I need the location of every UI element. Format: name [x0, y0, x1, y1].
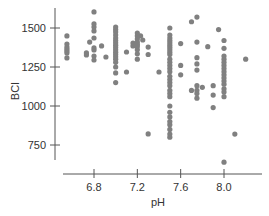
y-ticks: 750100012501500: [22, 22, 60, 151]
data-point: [91, 28, 96, 33]
data-point: [146, 131, 151, 136]
data-point: [221, 46, 226, 51]
data-point: [91, 9, 96, 14]
data-point: [167, 110, 172, 115]
data-point: [167, 94, 172, 99]
data-point: [103, 54, 108, 59]
data-point: [221, 160, 226, 165]
y-axis-title: BCI: [9, 82, 21, 100]
data-point: [205, 44, 210, 49]
data-point: [189, 19, 194, 24]
data-point: [194, 61, 199, 66]
y-tick-label: 1250: [22, 61, 46, 73]
x-tick-label: 6.8: [86, 181, 101, 193]
data-point: [200, 85, 205, 90]
data-point: [87, 39, 92, 44]
data-point: [194, 55, 199, 60]
data-point: [91, 35, 96, 40]
data-point: [211, 92, 216, 97]
data-point: [167, 135, 172, 140]
data-point: [167, 122, 172, 127]
data-point: [124, 69, 129, 74]
data-point: [232, 131, 237, 136]
data-point: [167, 127, 172, 132]
x-tick-label: 8.0: [216, 181, 231, 193]
data-point: [113, 80, 118, 85]
data-point: [135, 51, 140, 56]
data-point: [243, 57, 248, 62]
x-axis-title: pH: [151, 196, 165, 208]
data-point: [178, 41, 183, 46]
data-point: [167, 114, 172, 119]
x-tick-label: 7.6: [173, 181, 188, 193]
data-point: [140, 37, 145, 42]
data-point: [211, 83, 216, 88]
data-point: [64, 55, 69, 60]
scatter-chart: 750100012501500 6.87.27.68.0 BCI pH: [0, 0, 269, 216]
data-point: [221, 82, 226, 87]
data-point: [91, 57, 96, 62]
data-point: [167, 103, 172, 108]
y-tick-label: 1500: [22, 22, 46, 34]
data-points: [64, 9, 248, 164]
y-tick-label: 750: [28, 139, 46, 151]
data-point: [194, 14, 199, 19]
data-point: [167, 25, 172, 30]
data-point: [189, 88, 194, 93]
data-point: [194, 91, 199, 96]
data-point: [113, 60, 118, 65]
data-point: [64, 50, 69, 55]
x-tick-label: 7.2: [130, 181, 145, 193]
data-point: [194, 68, 199, 73]
data-point: [221, 89, 226, 94]
data-point: [194, 39, 199, 44]
data-point: [221, 38, 226, 43]
data-point: [64, 33, 69, 38]
data-point: [124, 49, 129, 54]
data-point: [178, 63, 183, 68]
data-point: [113, 64, 118, 69]
data-point: [167, 83, 172, 88]
data-point: [84, 52, 89, 57]
x-ticks: 6.87.27.68.0: [86, 169, 231, 193]
data-point: [146, 52, 151, 57]
data-point: [113, 70, 118, 75]
data-point: [167, 69, 172, 74]
data-point: [194, 83, 199, 88]
data-point: [91, 47, 96, 52]
data-point: [221, 94, 226, 99]
data-point: [194, 96, 199, 101]
data-point: [167, 52, 172, 57]
data-point: [146, 44, 151, 49]
data-point: [211, 105, 216, 110]
data-point: [178, 72, 183, 77]
data-point: [156, 69, 161, 74]
data-point: [216, 27, 221, 32]
y-tick-label: 1000: [22, 100, 46, 112]
data-point: [135, 57, 140, 62]
data-point: [99, 43, 104, 48]
